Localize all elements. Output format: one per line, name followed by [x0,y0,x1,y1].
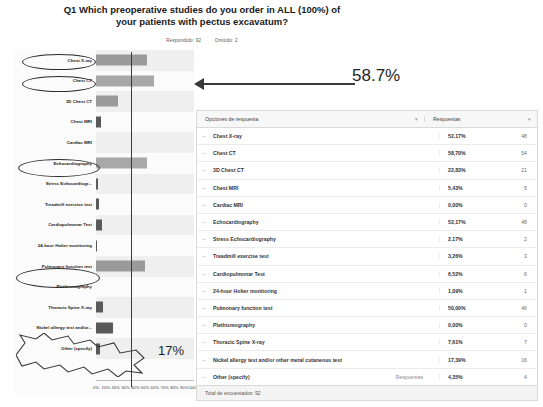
chart-track [96,297,194,318]
cell-percentage: 7,61% [439,339,489,345]
cell-count: 7 [489,339,537,345]
cell-count: 3 [489,253,537,259]
chart-row: Thoracic Spine X-ray [14,297,194,318]
chart-category-label: Nickel allergy test and/or... [14,325,96,330]
table-row[interactable]: –Chest MRI5,43%5 [197,180,537,197]
x-axis-tick-label: 80% [170,385,178,390]
table-header-row: Opciones de respuesta ▾ Respuestas ▾ [197,111,537,128]
cell-option-label: Chest CT [213,150,236,156]
table-row[interactable]: –Chest CT58,70%54 [197,145,537,162]
cell-count: 1 [489,288,537,294]
chart-category-label: Echocardiography [14,161,96,166]
cell-percentage: 52,17% [439,133,489,139]
table-row[interactable]: –Thoracic Spine X-ray7,61%7 [197,334,537,351]
cell-option-label: 24-hour Holter monitoring [213,288,277,294]
expand-row-icon[interactable]: – [203,185,209,191]
expand-row-icon[interactable]: – [203,374,209,380]
chart-row: 24-hour Holter monitoring [14,235,194,256]
cell-option-label: Cardiopulmonar Test [213,271,265,277]
chart-row: Echocardiography [14,153,194,174]
table-row[interactable]: –Echocardiography52,17%48 [197,214,537,231]
expand-row-icon[interactable]: – [203,133,209,139]
table-row[interactable]: –3D Chest CT22,83%21 [197,162,537,179]
cell-count: 0 [489,202,537,208]
cell-option: –Thoracic Spine X-ray [197,339,439,345]
chart-bar [96,220,102,231]
chart-row: Chest CT [14,71,194,92]
table-body: –Chest X-ray52,17%48–Chest CT58,70%54–3D… [197,128,537,386]
cell-option-label: Nickel allergy test and/or other metal c… [213,357,342,363]
x-axis-tick-label: 70% [160,385,168,390]
chart-bar [96,240,97,251]
expand-row-icon[interactable]: – [203,322,209,328]
table-row[interactable]: –Other (specify)Respuestas4,35%4 [197,369,537,386]
chart-track [96,215,194,236]
chart-track [96,71,194,92]
expand-row-icon[interactable]: – [203,253,209,259]
cell-option-label: Other (specify) [213,374,250,380]
expand-row-icon[interactable]: – [203,167,209,173]
chart-row: Cardiopulmonar Test [14,215,194,236]
table-row[interactable]: –Plethismography0,00%0 [197,317,537,334]
cell-percentage: 1,09% [439,288,489,294]
table-row[interactable]: –Chest X-ray52,17%48 [197,128,537,145]
chart-category-label: Thoracic Spine X-ray [14,305,96,310]
table-row[interactable]: –Cardiac MRI0,00%0 [197,197,537,214]
chevron-down-icon[interactable]: ▾ [528,117,531,122]
cell-option: –Pulmonary function test [197,305,439,311]
cell-option: –Cardiac MRI [197,202,439,208]
expand-row-icon[interactable]: – [203,288,209,294]
chart-bar [96,302,103,313]
arrow-line [200,83,355,85]
x-axis-tick-label: 10% [102,385,110,390]
expand-row-icon[interactable]: – [203,339,209,345]
chart-bar [96,96,118,107]
results-table: Opciones de respuesta ▾ Respuestas ▾ –Ch… [196,110,538,401]
chart-track [96,277,194,298]
table-row[interactable]: –24-hour Holter monitoring1,09%1 [197,283,537,300]
chart-bar [96,199,99,210]
cell-percentage: 52,17% [439,219,489,225]
chart-track [96,50,194,71]
chart-row: 3D Chest CT [14,91,194,112]
expand-row-icon[interactable]: – [203,271,209,277]
total-respondents: Total de encuestados: 92 [205,390,261,396]
cell-count: 48 [489,133,537,139]
expand-row-icon[interactable]: – [203,150,209,156]
cell-option: –Plethismography [197,322,439,328]
chart-category-label: Pulmonary function test [14,264,96,269]
chart-track [96,174,194,195]
cell-count: 4 [489,374,537,380]
chart-bar [96,323,113,334]
cell-count: 6 [489,271,537,277]
chart-row: Plethismography [14,277,194,298]
expand-row-icon[interactable]: – [203,219,209,225]
column-header-responses[interactable]: Respuestas ▾ [424,116,537,122]
chart-track [96,194,194,215]
column-header-options[interactable]: Opciones de respuesta ▾ [197,116,424,122]
expand-row-icon[interactable]: – [203,236,209,242]
cell-count: 48 [489,219,537,225]
expand-row-icon[interactable]: – [203,202,209,208]
cell-count: 16 [489,357,537,363]
x-axis-tick-label: 20% [111,385,119,390]
table-row[interactable]: –Cardiopulmonar Test6,52%6 [197,266,537,283]
cell-option: –24-hour Holter monitoring [197,288,439,294]
cell-option-label: Cardiac MRI [213,202,243,208]
annotation-58-percent: 58.7% [352,66,400,86]
expand-row-icon[interactable]: – [203,305,209,311]
cell-percentage: 58,70% [439,150,489,156]
cell-option-label: Plethismography [213,322,255,328]
x-axis-tick-label: 30% [121,385,129,390]
chart-row: Pulmonary function test [14,256,194,277]
table-row[interactable]: –Stress Echocardiography2,17%2 [197,231,537,248]
expand-row-icon[interactable]: – [203,357,209,363]
chart-bar [96,75,154,86]
table-row[interactable]: –Treadmill exercise test3,26%3 [197,248,537,265]
cell-percentage: 4,35% [439,374,489,380]
cell-option: –Chest MRI [197,185,439,191]
table-row[interactable]: –Nickel allergy test and/or other metal … [197,351,537,368]
table-row[interactable]: –Pulmonary function test50,00%46 [197,300,537,317]
annotation-star-callout [16,333,150,377]
chevron-down-icon[interactable]: ▾ [415,117,418,122]
